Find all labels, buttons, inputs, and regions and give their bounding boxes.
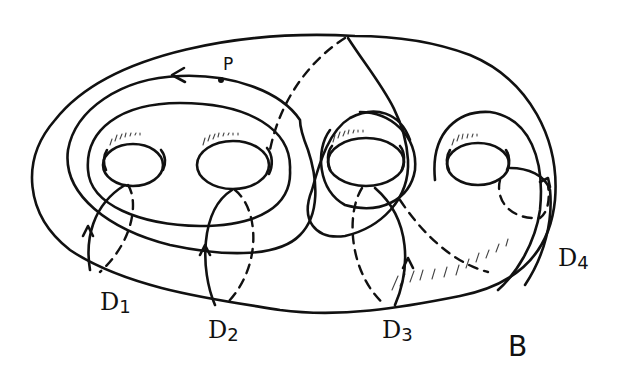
label-d4: D4: [558, 246, 589, 272]
hole-3-lip-left: [328, 146, 332, 170]
outer-boundary: [32, 35, 556, 313]
hole-3: [328, 138, 404, 186]
label-d1: D1: [100, 290, 131, 316]
disk-d2-front: [205, 190, 232, 305]
point-p-dot: [218, 77, 224, 83]
curve-inner-loop: [88, 103, 290, 226]
hole-1-lip-left: [104, 150, 107, 170]
handlebody-diagram: P D1 D2 D3 D4 B: [0, 0, 620, 381]
curve-around-hole-4: [434, 112, 540, 290]
label-d1-letter: D: [100, 288, 119, 316]
dashed-long-curve: [270, 38, 488, 272]
panel-label: B: [508, 333, 527, 361]
label-point-p: P: [223, 56, 233, 73]
hole-1: [103, 144, 163, 186]
label-d2-letter: D: [208, 316, 227, 344]
label-d2: D2: [208, 318, 239, 344]
disk-d2-back: [225, 190, 253, 305]
label-d4-letter: D: [558, 244, 577, 272]
hole-2: [197, 141, 269, 189]
hole-4: [447, 143, 509, 185]
label-d3-index: 3: [401, 324, 412, 345]
label-d3: D3: [382, 318, 413, 344]
label-d3-letter: D: [382, 316, 401, 344]
hole-3-lip-right: [400, 146, 404, 170]
label-d4-index: 4: [577, 252, 588, 273]
label-d1-index: 1: [119, 296, 130, 317]
handlebody-drawing: [0, 0, 620, 381]
label-d2-index: 2: [227, 324, 238, 345]
disk-d1-back: [100, 185, 133, 272]
